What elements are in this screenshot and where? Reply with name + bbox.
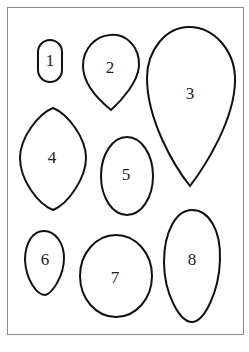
shape-8: 8 [164,210,220,322]
shape-8-label: 8 [188,250,197,269]
shape-3-label: 3 [186,84,195,103]
shape-6-label: 6 [41,250,50,269]
shape-6: 6 [25,231,64,295]
shape-7: 7 [80,235,152,317]
shape-3: 3 [147,27,235,186]
shapes-canvas: 1 2 3 4 5 6 7 8 [0,0,249,352]
shape-1-label: 1 [46,51,55,70]
shape-4-label: 4 [48,148,57,167]
shape-4: 4 [20,108,86,210]
shape-5-label: 5 [122,165,131,184]
shape-5: 5 [101,137,153,215]
shape-2-label: 2 [106,58,115,77]
shape-7-label: 7 [111,268,120,287]
shape-1: 1 [38,40,62,82]
shape-2: 2 [83,35,139,110]
